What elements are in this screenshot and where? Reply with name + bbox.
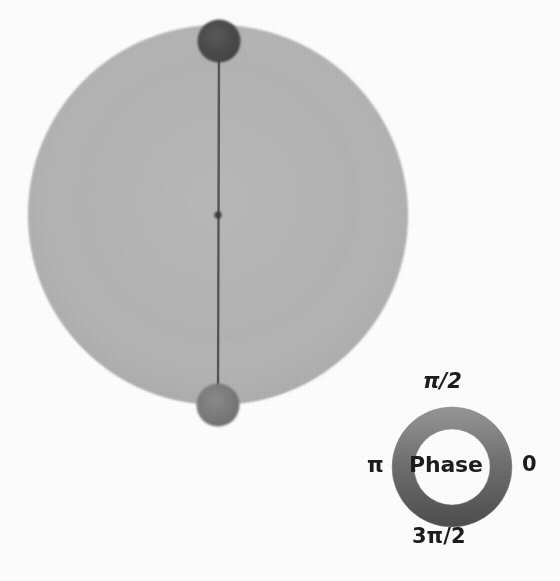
legend-tick-zero: 0 <box>522 454 537 475</box>
bottom-lobe <box>197 384 240 427</box>
axis-line <box>218 41 219 405</box>
center-marker-icon <box>214 211 221 218</box>
phase-figure: π/2 3π/2 π 0 Phase <box>0 0 560 581</box>
legend-tick-three-pi-half: 3π/2 <box>412 526 466 547</box>
top-lobe <box>198 20 241 63</box>
legend-tick-pi: π <box>367 455 384 476</box>
legend-tick-pi-half: π/2 <box>423 371 462 392</box>
legend-center-label: Phase <box>409 454 483 476</box>
figure-canvas <box>0 0 560 581</box>
